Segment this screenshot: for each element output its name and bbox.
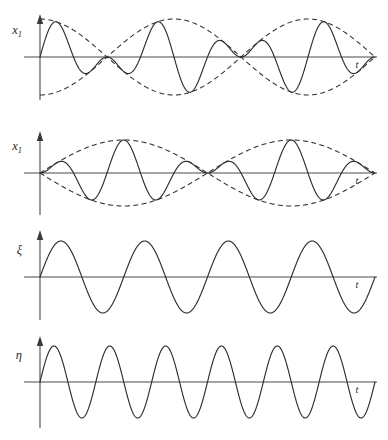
y-axis-label: x1: [11, 139, 22, 155]
x-axis-label: t: [356, 384, 360, 395]
panel-2: x1t: [11, 131, 377, 215]
panel-1: x1t: [11, 14, 377, 100]
panels-group: x1tx1tξtηt: [11, 14, 377, 428]
y-axis-arrow-icon: [37, 230, 43, 240]
panel-3: ξt: [17, 230, 377, 320]
x-axis-label: t: [356, 175, 360, 186]
y-axis-arrow-icon: [37, 336, 43, 346]
y-axis-label: η: [16, 348, 22, 362]
y-axis-label: x1: [11, 23, 22, 39]
panel-4: ηt: [16, 336, 377, 428]
x-axis-label: t: [356, 59, 360, 70]
y-axis-label: ξ: [17, 243, 23, 257]
wave-superposition-figure: x1tx1tξtηt: [0, 0, 388, 440]
superposition-curve: [40, 140, 375, 200]
x-axis-label: t: [356, 279, 360, 290]
y-axis-arrow-icon: [37, 131, 43, 141]
